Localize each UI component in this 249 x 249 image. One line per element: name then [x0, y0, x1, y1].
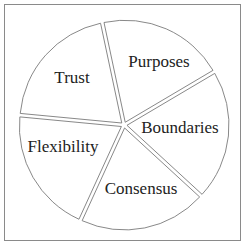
label-flexibility: Flexibility — [28, 137, 99, 156]
segment-trust: Trust — [20, 23, 122, 123]
label-consensus: Consensus — [105, 179, 178, 198]
label-boundaries: Boundaries — [141, 118, 218, 137]
pie-diagram: Purposes Boundaries Consensus Flexibilit… — [0, 0, 249, 249]
label-purposes: Purposes — [128, 52, 189, 71]
label-trust: Trust — [54, 68, 90, 87]
